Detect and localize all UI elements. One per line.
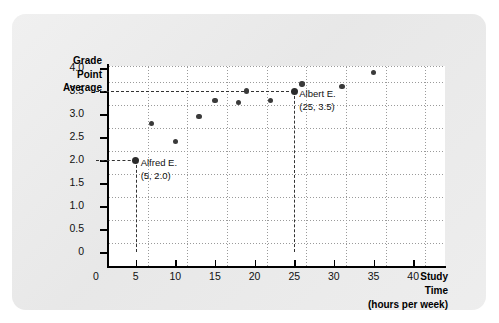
data-point [196,114,202,120]
gridline-horizontal [108,105,445,106]
y-axis-title-line-1: Grade [54,54,102,68]
x-axis-title-line-1: Study [312,270,448,284]
data-point [132,157,139,164]
x-axis-tick [334,260,336,268]
y-axis-tick-label: 2.5 [50,130,84,142]
x-axis-tick-label: 0 [81,270,111,282]
gridline-vertical [425,66,426,266]
data-point [291,88,298,95]
gridline-vertical [267,66,268,266]
y-axis-title-line-2: Point [54,68,102,82]
leader-line-vertical-albert [294,91,295,252]
gridline-horizontal [108,66,445,67]
annotation-coords-alfred: (5, 2.0) [141,169,177,182]
gridline-horizontal [108,197,445,198]
gridline-vertical [187,66,188,266]
gridline-vertical [346,66,347,266]
y-axis-tick-label: 1.5 [50,176,84,188]
y-axis-title-line-3: Average [54,81,102,95]
gridline-horizontal [108,243,445,244]
x-axis-tick-label: 15 [200,270,230,282]
x-axis-tick-label: 25 [279,270,309,282]
gridline-horizontal [108,220,445,221]
annotation-label-albert: Albert E. [299,87,335,100]
x-axis-tick [175,260,177,268]
x-axis-tick [215,260,217,268]
y-axis-tick [100,252,108,254]
data-point [339,84,345,90]
y-axis-tick-label: 2.0 [50,153,84,165]
y-axis-tick-label: 3.0 [50,107,84,119]
y-axis-line [107,64,109,268]
x-axis-tick [255,260,257,268]
figure-card: 00.51.01.52.02.53.03.54.0051015202530354… [12,14,486,310]
x-axis-title-line-3: (hours per week) [312,298,448,312]
x-axis-tick [374,260,376,268]
gridline-horizontal [108,82,445,83]
x-axis-tick [136,260,138,268]
annotation-alfred: Alfred E.(5, 2.0) [141,156,177,182]
y-axis-tick-label: 0 [50,245,84,257]
annotation-albert: Albert E.(25, 3.5) [299,87,335,113]
x-axis-tick-label: 20 [240,270,270,282]
gridline-horizontal [108,128,445,129]
annotation-coords-albert: (25, 3.5) [299,100,335,113]
y-axis-tick-label: 1.0 [50,199,84,211]
x-axis-tick [413,260,415,268]
y-axis-title: Grade Point Average [54,54,102,95]
y-axis-tick [100,137,108,139]
y-axis-tick [100,183,108,185]
gridline-horizontal [108,151,445,152]
x-axis-tick [294,260,296,268]
x-axis-title: Study Time (hours per week) [312,270,448,312]
leader-line-horizontal-albert [96,91,294,92]
y-axis-tick [100,114,108,116]
y-axis-tick-label: 0.5 [50,222,84,234]
y-axis-tick [100,229,108,231]
x-axis-tick-label: 10 [160,270,190,282]
annotation-label-alfred: Alfred E. [141,156,177,169]
y-axis-tick [100,206,108,208]
data-point [212,98,218,104]
x-axis-title-line-2: Time [312,284,448,298]
gridline-vertical [227,66,228,266]
leader-line-horizontal-alfred [96,160,136,161]
x-axis-tick-label: 5 [121,270,151,282]
x-axis-line [107,266,446,268]
gridline-vertical [386,66,387,266]
leader-line-vertical-alfred [136,160,137,252]
